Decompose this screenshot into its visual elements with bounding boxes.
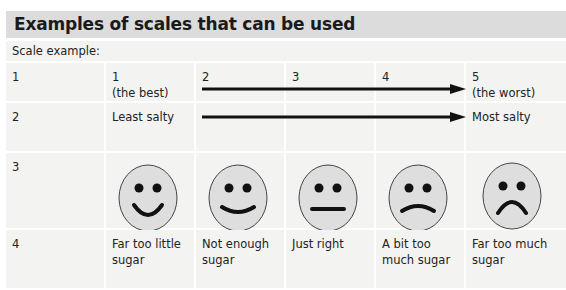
scale-value: 1 xyxy=(112,69,194,85)
arrow-right-icon xyxy=(202,111,468,123)
table-row-4: 4 Far too little sugar Not enough sugar … xyxy=(6,230,566,290)
scales-table: Scale example: 1 1 (the best) 2 3 4 5 (t… xyxy=(6,41,566,290)
table-row-3: 3 xyxy=(6,153,566,230)
option-label: Far too little sugar xyxy=(106,230,196,288)
sad-face-icon xyxy=(386,163,450,233)
row-label: 1 xyxy=(6,63,106,101)
very-happy-face-icon xyxy=(116,163,180,233)
face-cell xyxy=(106,153,196,228)
caption-row: Scale example: xyxy=(6,41,566,63)
caption: Scale example: xyxy=(6,41,566,61)
very-sad-face-icon xyxy=(480,161,544,231)
scale-note: (the best) xyxy=(112,85,194,101)
happy-face-icon xyxy=(206,163,270,233)
title-bar: Examples of scales that can be used xyxy=(6,11,566,38)
arrow-right-icon xyxy=(202,83,468,95)
scale-start: Least salty xyxy=(106,103,196,151)
section-title: Examples of scales that can be used xyxy=(14,14,355,34)
scale-point-2: 2 xyxy=(196,63,286,101)
row-label: 2 xyxy=(6,103,106,151)
neutral-face-icon xyxy=(296,163,360,233)
scale-point-5: 5 (the worst) xyxy=(466,63,566,101)
option-label: Not enough sugar xyxy=(196,230,286,288)
face-cell xyxy=(466,153,566,228)
scale-end: Most salty xyxy=(466,103,566,151)
scale-point-3: 3 xyxy=(286,63,376,101)
face-cell xyxy=(286,153,376,228)
option-label: Just right xyxy=(286,230,376,288)
face-cell xyxy=(196,153,286,228)
face-cell xyxy=(376,153,466,228)
scale-point-4: 4 xyxy=(376,63,466,101)
option-label: Far too much sugar xyxy=(466,230,566,288)
table-row-2: 2 Least salty Most salty xyxy=(6,103,566,153)
scale-note: (the worst) xyxy=(472,85,566,101)
option-label: A bit too much sugar xyxy=(376,230,466,288)
scale-point-1: 1 (the best) xyxy=(106,63,196,101)
row-label: 4 xyxy=(6,230,106,288)
table-row-1: 1 1 (the best) 2 3 4 5 (the worst) xyxy=(6,63,566,103)
row-label: 3 xyxy=(6,153,106,228)
scale-value: 5 xyxy=(472,69,566,85)
